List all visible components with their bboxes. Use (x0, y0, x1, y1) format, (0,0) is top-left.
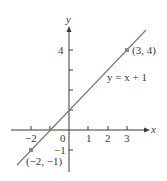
x-tick-label: 3 (124, 132, 130, 144)
x-axis-arrow-icon (144, 128, 150, 133)
point-label: (3, 4) (132, 44, 156, 57)
x-axis-label: x (150, 123, 156, 135)
x-tick-label: −2 (25, 132, 37, 144)
x-tick-label: 2 (105, 132, 111, 144)
point-3-4 (125, 48, 129, 52)
y-ticks (69, 50, 73, 150)
x-ticks (31, 126, 127, 130)
equation-label: y = x + 1 (107, 71, 147, 83)
x-tick-label: 1 (86, 132, 92, 144)
point-label: (−2, −1) (26, 155, 63, 168)
y-axis-label: y (65, 13, 71, 25)
x-tick-label: 0 (60, 132, 66, 144)
point-neg2-neg1 (29, 148, 33, 152)
graph-canvas: y x −2 0 1 2 3 4 −1 (3, 4) (−2, −1) y = … (0, 0, 167, 181)
y-tick-label: 4 (58, 44, 64, 56)
y-axis-arrow-icon (67, 26, 72, 32)
